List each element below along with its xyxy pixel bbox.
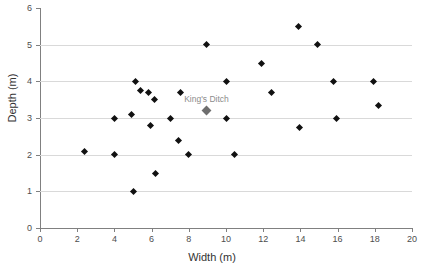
x-tick-label-14: 14 — [288, 233, 312, 245]
y-tick-label-5: 5 — [14, 40, 32, 50]
data-point — [231, 151, 238, 158]
y-tick-label-6: 6 — [14, 3, 32, 13]
x-tick-label-10: 10 — [214, 233, 238, 245]
data-point — [314, 41, 321, 48]
data-point — [177, 89, 184, 96]
x-tick-label-12: 12 — [251, 233, 275, 245]
x-tick-label-20: 20 — [400, 233, 424, 245]
point-annotation-label: King's Ditch — [184, 94, 229, 104]
x-tick-0 — [40, 228, 41, 232]
scatter-chart: Depth (m) 0123456 02468101214161820 King… — [0, 0, 424, 277]
data-point — [375, 102, 382, 109]
data-point — [167, 114, 174, 121]
plot-area: King's Ditch — [40, 8, 412, 228]
x-tick-label-4: 4 — [102, 233, 126, 245]
x-tick-14 — [300, 228, 301, 232]
data-point — [203, 41, 210, 48]
data-point — [111, 114, 118, 121]
gridline-y-2 — [40, 155, 412, 156]
y-tick-label-4: 4 — [14, 76, 32, 86]
x-tick-label-16: 16 — [326, 233, 350, 245]
data-point — [333, 114, 340, 121]
data-point — [222, 78, 229, 85]
x-tick-label-0: 0 — [28, 233, 52, 245]
data-point — [222, 114, 229, 121]
data-point — [128, 111, 135, 118]
data-point — [132, 78, 139, 85]
x-tick-6 — [152, 228, 153, 232]
x-tick-8 — [189, 228, 190, 232]
data-point — [330, 78, 337, 85]
data-point — [147, 122, 154, 129]
gridline-y-5 — [40, 45, 412, 46]
data-point — [268, 89, 275, 96]
x-tick-label-18: 18 — [363, 233, 387, 245]
data-point — [152, 169, 159, 176]
x-tick-18 — [375, 228, 376, 232]
x-tick-20 — [412, 228, 413, 232]
data-point-highlighted — [202, 106, 212, 116]
data-point — [129, 188, 136, 195]
y-tick-label-1: 1 — [14, 186, 32, 196]
x-axis-title: Width (m) — [0, 251, 424, 263]
data-point — [370, 78, 377, 85]
data-point — [295, 23, 302, 30]
y-axis-title: Depth (m) — [6, 33, 18, 163]
x-tick-4 — [114, 228, 115, 232]
gridline-y-1 — [40, 191, 412, 192]
data-point — [258, 59, 265, 66]
data-point — [296, 124, 303, 131]
x-tick-12 — [263, 228, 264, 232]
data-point — [185, 151, 192, 158]
data-point — [81, 147, 88, 154]
y-tick-label-2: 2 — [14, 150, 32, 160]
x-tick-10 — [226, 228, 227, 232]
y-tick-label-3: 3 — [14, 113, 32, 123]
data-point — [111, 151, 118, 158]
data-point — [175, 136, 182, 143]
data-point — [137, 87, 144, 94]
x-tick-16 — [338, 228, 339, 232]
x-tick-label-6: 6 — [140, 233, 164, 245]
y-tick-label-0: 0 — [14, 223, 32, 233]
data-point — [151, 96, 158, 103]
x-tick-label-8: 8 — [177, 233, 201, 245]
x-tick-label-2: 2 — [65, 233, 89, 245]
x-tick-2 — [77, 228, 78, 232]
data-point — [145, 89, 152, 96]
